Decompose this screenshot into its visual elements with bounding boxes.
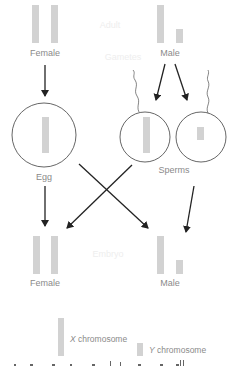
x-chromosome bbox=[157, 5, 164, 43]
stage-label-gametes: Gametes bbox=[105, 52, 142, 62]
cropped-caption-fragment bbox=[14, 360, 184, 366]
y-chromosome bbox=[176, 260, 183, 274]
x-chromosome bbox=[157, 236, 164, 274]
x-chromosome bbox=[51, 236, 58, 274]
x-chromosome bbox=[42, 117, 49, 153]
x-chromosome bbox=[143, 117, 150, 153]
adult-female-label: Female bbox=[30, 48, 60, 58]
y-chromosome bbox=[176, 29, 183, 43]
x-chromosome bbox=[51, 5, 58, 43]
stage-label-adult: Adult bbox=[100, 20, 121, 30]
embryo-female-label: Female bbox=[30, 278, 60, 288]
sperm-tail-icon bbox=[207, 70, 209, 113]
arrow-down-left-icon bbox=[156, 64, 165, 100]
adult-female: Female bbox=[30, 5, 60, 58]
sperm-y bbox=[176, 70, 226, 162]
legend-y-swatch bbox=[137, 343, 143, 356]
y-chromosome bbox=[197, 127, 204, 140]
stage-label-embryo: Embryo bbox=[92, 249, 123, 259]
adult-male: Male bbox=[157, 5, 183, 58]
legend-x-swatch bbox=[58, 318, 64, 356]
arrow-cross-left-icon bbox=[67, 165, 132, 228]
legend-x-label: X chromosome bbox=[69, 334, 127, 344]
sperms-label: Sperms bbox=[158, 165, 190, 175]
arrow-cross-right-icon bbox=[79, 164, 148, 228]
legend-y-label: Y chromosome bbox=[149, 345, 206, 355]
egg-cell: Egg bbox=[12, 103, 76, 182]
sex-determination-diagram: Adult Gametes Embryo Female Male Egg Spe… bbox=[0, 0, 251, 366]
sperm-tail-icon bbox=[133, 70, 139, 112]
adult-male-label: Male bbox=[160, 48, 180, 58]
legend: X chromosome Y chromosome bbox=[58, 318, 206, 356]
embryo-male-label: Male bbox=[160, 278, 180, 288]
egg-label: Egg bbox=[36, 172, 52, 182]
sperm-x bbox=[120, 70, 170, 162]
embryo-male: Male bbox=[157, 236, 183, 288]
arrow-down-icon bbox=[186, 186, 194, 232]
arrow-down-right-icon bbox=[175, 64, 187, 100]
x-chromosome bbox=[32, 5, 39, 43]
embryo-female: Female bbox=[30, 236, 60, 288]
x-chromosome bbox=[33, 236, 40, 274]
